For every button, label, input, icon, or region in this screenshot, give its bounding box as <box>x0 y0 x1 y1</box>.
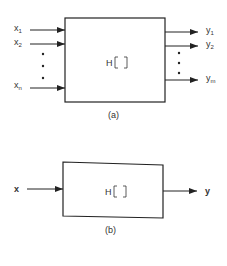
svg-text:y2: y2 <box>206 39 215 50</box>
output-ym: ym <box>165 73 216 84</box>
svg-text:ym: ym <box>206 73 216 84</box>
caption-b: (b) <box>105 225 116 235</box>
diagram-a: H x1 x2 xn y1 y2 <box>14 18 216 120</box>
input-xn: xn <box>14 80 65 91</box>
bracket-icon-b <box>114 186 126 197</box>
svg-text:xn: xn <box>14 80 22 91</box>
svg-text:y1: y1 <box>206 25 215 36</box>
output-ellipsis <box>178 52 180 74</box>
diagram-b: H x y (b) <box>14 162 210 235</box>
system-box-b <box>63 162 163 218</box>
output-y2: y2 <box>165 39 215 50</box>
bracket-icon-a <box>115 57 127 68</box>
input-x2: x2 <box>14 37 65 48</box>
svg-text:x1: x1 <box>14 23 23 34</box>
input-x: x <box>14 184 19 194</box>
operator-label-b: H <box>105 187 112 197</box>
caption-a: (a) <box>108 110 119 120</box>
svg-text:x2: x2 <box>14 37 23 48</box>
system-diagrams: H x1 x2 xn y1 y2 <box>0 0 227 266</box>
output-y: y <box>205 186 210 196</box>
output-y1: y1 <box>165 25 215 36</box>
input-ellipsis <box>42 53 44 79</box>
operator-label-a: H <box>106 58 113 68</box>
input-x1: x1 <box>14 23 65 34</box>
